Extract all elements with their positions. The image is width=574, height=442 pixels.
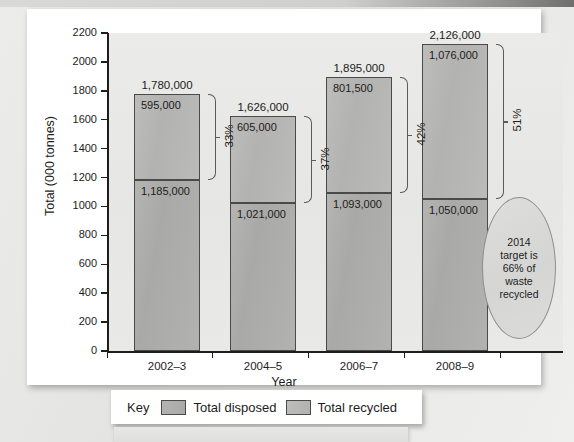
y-axis-tick-label: 800	[63, 229, 97, 240]
bar-total-label: 1,780,000	[134, 79, 200, 91]
bar-segment-label-disposed: 1,050,000	[429, 204, 478, 216]
x-axis-tick-label: 2006–7	[314, 360, 404, 372]
bar-segment-recycled[interactable]: 605,000	[230, 116, 296, 203]
percent-bracket	[208, 94, 216, 180]
x-axis-tick	[212, 351, 213, 358]
y-axis-tick-label: 1000	[63, 200, 97, 211]
page-bottom-strip	[114, 427, 408, 442]
x-axis-title: Year	[27, 375, 541, 389]
legend-title: Key	[127, 400, 149, 415]
bar-segment-disposed[interactable]: 1,185,000	[134, 180, 200, 351]
percent-bracket	[304, 116, 312, 203]
x-axis-line	[107, 351, 563, 353]
bar-group[interactable]: 801,5001,093,000	[326, 77, 392, 351]
y-axis-tick-label: 1200	[63, 172, 97, 183]
x-axis-tick	[500, 351, 501, 358]
legend-swatch-recycled	[286, 400, 311, 415]
bar-segment-disposed[interactable]: 1,093,000	[326, 193, 392, 351]
legend-label-disposed: Total disposed	[193, 400, 276, 415]
y-axis-tick	[101, 177, 108, 178]
bar-group[interactable]: 605,0001,021,000	[230, 116, 296, 351]
bar-segment-label-recycled: 1,076,000	[429, 49, 478, 61]
y-axis-tick	[101, 206, 108, 207]
y-axis-tick-label: 1400	[63, 143, 97, 154]
percent-bracket-nub	[312, 160, 316, 161]
x-axis-tick	[404, 351, 405, 358]
bar-segment-recycled[interactable]: 801,500	[326, 77, 392, 193]
x-axis-tick-label: 2008–9	[410, 360, 500, 372]
percent-bracket-nub	[504, 121, 508, 122]
y-axis-line	[107, 33, 109, 352]
bar-group[interactable]: 1,076,0001,050,000	[422, 44, 488, 351]
bar-total-label: 1,895,000	[326, 62, 392, 74]
y-axis-tick-label: 2200	[63, 27, 97, 38]
percent-label: 42%	[415, 114, 427, 154]
target-callout-line: 66% of	[487, 262, 551, 275]
bar-segment-recycled[interactable]: 595,000	[134, 94, 200, 180]
percent-bracket	[496, 44, 504, 200]
percent-bracket-nub	[216, 137, 220, 138]
target-callout-line: target is	[487, 249, 551, 262]
y-axis-tick	[101, 148, 108, 149]
y-axis-tick-label: 600	[63, 258, 97, 269]
percent-label: 51%	[511, 100, 523, 140]
y-axis-tick	[101, 235, 108, 236]
legend-item-recycled: Total recycled	[286, 400, 397, 415]
y-axis-tick	[101, 264, 108, 265]
bar-segment-label-disposed: 1,185,000	[141, 185, 190, 197]
y-axis-title: Total (000 tonnes)	[43, 81, 57, 251]
y-axis-tick-label: 1600	[63, 114, 97, 125]
y-axis-tick-label: 200	[63, 316, 97, 327]
x-axis-tick	[308, 351, 309, 358]
bar-total-label: 2,126,000	[422, 29, 488, 41]
x-axis-tick	[107, 351, 108, 358]
y-axis-tick	[101, 292, 108, 293]
y-axis-tick-label: 0	[63, 345, 97, 356]
bar-segment-disposed[interactable]: 1,021,000	[230, 203, 296, 351]
target-callout-ellipse: 2014target is66% ofwasterecycled	[482, 197, 556, 339]
percent-bracket	[400, 77, 408, 193]
legend-swatch-disposed	[161, 400, 186, 415]
x-axis-tick-label: 2002–3	[122, 360, 212, 372]
y-axis-tick-label: 400	[63, 287, 97, 298]
x-axis-tick-label: 2004–5	[218, 360, 308, 372]
bar-segment-recycled[interactable]: 1,076,000	[422, 44, 488, 200]
bar-total-label: 1,626,000	[230, 101, 296, 113]
y-axis-tick	[101, 61, 108, 62]
bar-group[interactable]: 595,0001,185,000	[134, 94, 200, 351]
y-axis-tick	[101, 32, 108, 33]
bar-segment-disposed[interactable]: 1,050,000	[422, 199, 488, 351]
percent-label: 33%	[223, 116, 235, 156]
y-axis-tick-label: 1800	[63, 85, 97, 96]
target-callout-line: 2014	[487, 236, 551, 249]
bar-segment-label-recycled: 595,000	[141, 99, 181, 111]
y-axis-tick	[101, 321, 108, 322]
bar-segment-label-recycled: 605,000	[237, 121, 277, 133]
bar-segment-label-disposed: 1,093,000	[333, 198, 382, 210]
legend-item-disposed: Total disposed	[161, 400, 276, 415]
target-callout-text: 2014target is66% ofwasterecycled	[487, 236, 551, 301]
chart-legend: Key Total disposed Total recycled	[111, 390, 422, 424]
y-axis-tick	[101, 90, 108, 91]
figure-sheet: 2200200018001600140012001000800600400200…	[27, 9, 541, 385]
percent-bracket-nub	[408, 135, 412, 136]
bar-segment-label-disposed: 1,021,000	[237, 208, 286, 220]
bar-segment-label-recycled: 801,500	[333, 82, 373, 94]
legend-label-recycled: Total recycled	[318, 400, 397, 415]
y-axis-tick-label: 2000	[63, 56, 97, 67]
target-callout-line: waste	[487, 275, 551, 288]
y-axis-tick	[101, 119, 108, 120]
target-callout-line: recycled	[487, 288, 551, 301]
page-top-strip	[0, 0, 574, 7]
percent-label: 37%	[319, 139, 331, 179]
